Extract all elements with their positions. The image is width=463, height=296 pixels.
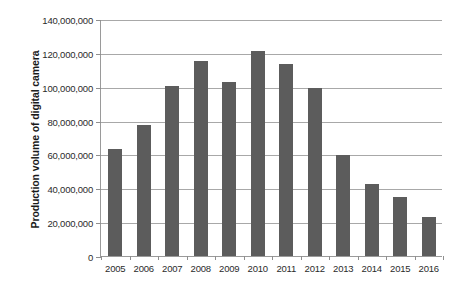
bar [251,51,265,256]
y-tick-label: 80,000,000 [47,116,93,127]
x-tick-label: 2006 [134,263,154,274]
x-tick-label: 2015 [390,263,410,274]
bar [279,64,293,256]
x-tick-mark [443,256,444,260]
bar [336,155,350,256]
bar [165,86,179,256]
bars-group [101,20,442,256]
bar [222,82,236,256]
x-tick-mark [272,256,273,260]
x-tick-label: 2007 [162,263,182,274]
bar [393,197,407,256]
x-tick-label: 2012 [305,263,325,274]
y-tick-label: 140,000,000 [42,15,93,26]
x-tick-mark [329,256,330,260]
y-tick-label: 20,000,000 [47,218,93,229]
bar [108,149,122,256]
y-axis-title: Production volume of digital camera [26,21,44,258]
bar [194,61,208,256]
bar [365,184,379,256]
x-tick-mark [386,256,387,260]
bar [137,125,151,256]
y-tick-label: 60,000,000 [47,150,93,161]
x-tick-mark [301,256,302,260]
bar [422,217,436,256]
x-tick-mark [158,256,159,260]
y-tick-label: 120,000,000 [42,48,93,59]
x-tick-mark [358,256,359,260]
x-tick-label: 2009 [219,263,239,274]
x-tick-mark [415,256,416,260]
x-tick-label: 2011 [276,263,296,274]
x-tick-mark [244,256,245,260]
x-tick-mark [187,256,188,260]
y-tick-label: 0 [88,252,93,263]
x-tick-label: 2005 [105,263,125,274]
bar-chart: Production volume of digital camera 020,… [0,0,463,296]
x-tick-mark [130,256,131,260]
y-tick-label: 40,000,000 [47,184,93,195]
x-tick-label: 2013 [333,263,353,274]
x-tick-label: 2010 [248,263,268,274]
x-tick-label: 2008 [191,263,211,274]
x-tick-label: 2014 [362,263,382,274]
plot-area: 020,000,00040,000,00060,000,00080,000,00… [100,20,442,257]
x-tick-mark [215,256,216,260]
y-tick-label: 100,000,000 [42,82,93,93]
x-tick-label: 2016 [419,263,439,274]
bar [308,88,322,256]
x-tick-mark [101,256,102,260]
